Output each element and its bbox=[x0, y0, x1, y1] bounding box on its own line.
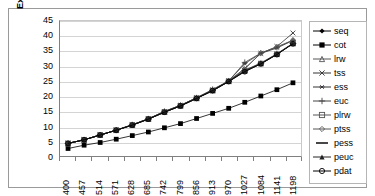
legend-label: pess bbox=[334, 137, 353, 149]
data-point-filled-square bbox=[162, 125, 167, 130]
x-tick-label: 685 bbox=[142, 161, 152, 195]
legend-label: seq bbox=[334, 25, 349, 37]
legend-marker-filled-square-icon bbox=[312, 39, 332, 51]
y-tick-label: 15 bbox=[31, 106, 53, 116]
series-cot bbox=[66, 80, 296, 150]
chart-legend: seqcotlrwtssesseucplrwptsspesspeucpdat bbox=[309, 21, 367, 184]
y-tick-label: 0 bbox=[31, 152, 53, 162]
x-tick-label: 913 bbox=[207, 161, 217, 195]
chart-frame: Execution Times (secs) 45403530252015105… bbox=[8, 8, 367, 188]
data-point-filled-square bbox=[82, 143, 87, 148]
legend-item-lrw[interactable]: lrw bbox=[312, 52, 366, 66]
data-point-filled-square bbox=[319, 42, 324, 47]
legend-item-pess[interactable]: pess bbox=[312, 136, 366, 150]
legend-marker-dash-icon bbox=[312, 137, 332, 149]
legend-label: ess bbox=[334, 81, 348, 93]
series-lrw bbox=[66, 41, 296, 146]
data-point-filled-square bbox=[226, 106, 231, 111]
legend-label: euc bbox=[334, 95, 349, 107]
y-tick-label: 5 bbox=[31, 137, 53, 147]
legend-marker-cross-x-icon bbox=[312, 67, 332, 79]
legend-label: peuc bbox=[334, 151, 354, 163]
x-tick-label: 571 bbox=[110, 161, 120, 195]
legend-marker-open-triangle-icon bbox=[312, 53, 332, 65]
data-point-filled-square bbox=[194, 116, 199, 121]
data-point-plus bbox=[319, 98, 325, 104]
legend-item-euc[interactable]: euc bbox=[312, 94, 366, 108]
legend-item-seq[interactable]: seq bbox=[312, 24, 366, 38]
series-plrw bbox=[66, 41, 296, 146]
legend-marker-plus-icon bbox=[312, 95, 332, 107]
data-point-filled-square bbox=[66, 146, 71, 151]
x-tick-label: 457 bbox=[77, 161, 87, 195]
y-tick-label: 25 bbox=[31, 76, 53, 86]
legend-item-cot[interactable]: cot bbox=[312, 38, 366, 52]
legend-item-ptss[interactable]: ptss bbox=[312, 122, 366, 136]
legend-marker-asterisk-icon bbox=[312, 81, 332, 93]
x-tick-label: 400 bbox=[61, 161, 71, 195]
legend-label: plrw bbox=[334, 109, 351, 121]
series-pess bbox=[65, 44, 297, 144]
y-tick-label: 30 bbox=[31, 61, 53, 71]
x-tick-label: 1027 bbox=[239, 161, 249, 195]
legend-label: ptss bbox=[334, 123, 351, 135]
plot-area bbox=[59, 20, 302, 157]
x-axis-tick-labels: 4004575145716286857427998569139701027108… bbox=[59, 161, 302, 195]
data-point-filled-square bbox=[242, 100, 247, 105]
y-tick-label: 45 bbox=[31, 15, 53, 25]
legend-label: pdat bbox=[334, 165, 352, 177]
series-tss bbox=[66, 31, 296, 146]
plot-series-svg bbox=[60, 21, 301, 156]
x-tick-label: 628 bbox=[126, 161, 136, 195]
data-point-cross-x bbox=[291, 31, 296, 36]
legend-item-ess[interactable]: ess bbox=[312, 80, 366, 94]
legend-marker-open-diamond-icon bbox=[312, 123, 332, 135]
y-tick-label: 40 bbox=[31, 30, 53, 40]
data-point-filled-square bbox=[275, 87, 280, 92]
legend-item-peuc[interactable]: peuc bbox=[312, 150, 366, 164]
legend-label: cot bbox=[334, 39, 346, 51]
data-point-filled-square bbox=[210, 111, 215, 116]
legend-item-tss[interactable]: tss bbox=[312, 66, 366, 80]
x-tick-label: 742 bbox=[158, 161, 168, 195]
legend-marker-filled-triangle-icon bbox=[312, 151, 332, 163]
data-point-filled-square bbox=[146, 130, 151, 135]
x-tick-label: 799 bbox=[175, 161, 185, 195]
x-tick-label: 514 bbox=[94, 161, 104, 195]
legend-item-plrw[interactable]: plrw bbox=[312, 108, 366, 122]
data-point-filled-square bbox=[291, 80, 296, 85]
legend-label: lrw bbox=[334, 53, 346, 65]
legend-marker-filled-diamond-icon bbox=[312, 25, 332, 37]
x-tick-label: 856 bbox=[191, 161, 201, 195]
y-tick-label: 20 bbox=[31, 91, 53, 101]
y-tick-label: 10 bbox=[31, 122, 53, 132]
data-point-filled-square bbox=[98, 140, 103, 145]
data-point-filled-square bbox=[114, 137, 119, 142]
data-point-asterisk bbox=[319, 85, 324, 89]
legend-item-pdat[interactable]: pdat bbox=[312, 164, 366, 178]
data-point-filled-diamond bbox=[319, 28, 324, 33]
x-tick-label: 1141 bbox=[272, 161, 282, 195]
y-axis-tick-labels: 454035302520151050 bbox=[31, 20, 53, 166]
series-peuc bbox=[66, 41, 296, 146]
x-tick-label: 970 bbox=[223, 161, 233, 195]
x-tick-label: 1198 bbox=[288, 161, 298, 195]
legend-marker-open-square-icon bbox=[312, 109, 332, 121]
y-tick-label: 35 bbox=[31, 45, 53, 55]
data-point-filled-square bbox=[130, 133, 135, 138]
series-pdat bbox=[66, 41, 296, 145]
legend-label: tss bbox=[334, 67, 346, 79]
data-point-filled-square bbox=[258, 94, 263, 99]
legend-marker-open-circle-icon bbox=[312, 165, 332, 177]
x-tick-label: 1084 bbox=[256, 161, 266, 195]
series-seq bbox=[66, 41, 296, 146]
y-axis-title-label: Execution Times (secs) bbox=[13, 0, 27, 23]
y-axis-title: Execution Times (secs) bbox=[13, 0, 27, 23]
data-point-filled-square bbox=[178, 121, 183, 126]
